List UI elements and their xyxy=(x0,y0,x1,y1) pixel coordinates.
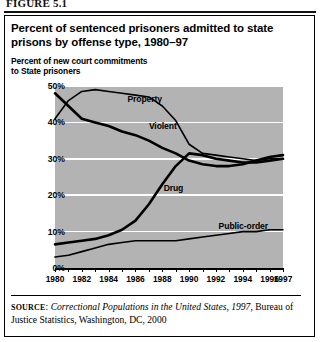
figure-rule xyxy=(4,11,316,13)
y-axis-note-line1: Percent of new court commitments xyxy=(11,56,251,66)
x-axis-tick-label: 1984 xyxy=(99,274,118,284)
x-axis-tick xyxy=(149,268,150,272)
x-axis-tick xyxy=(68,268,69,272)
x-axis-tick xyxy=(243,268,244,272)
x-axis-tick-label: 1997 xyxy=(274,274,293,284)
series-label-public-order: Public-order xyxy=(219,221,268,231)
series-label-property: Property xyxy=(127,94,162,104)
x-axis-tick xyxy=(95,268,96,272)
x-axis-tick xyxy=(122,268,123,272)
x-axis-tick xyxy=(256,268,257,272)
x-axis-tick xyxy=(162,268,163,272)
x-axis-tick-label: 1994 xyxy=(233,274,252,284)
x-axis-line xyxy=(55,268,283,270)
source-note: SOURCE: Correctional Populations in the … xyxy=(11,301,297,325)
x-axis-tick xyxy=(82,268,83,272)
series-line-public-order xyxy=(55,230,283,257)
x-axis-tick xyxy=(216,268,217,272)
source-divider xyxy=(11,295,301,296)
source-prefix: SOURCE xyxy=(11,303,46,312)
series-label-drug: Drug xyxy=(164,183,184,193)
x-axis-tick-label: 1988 xyxy=(153,274,172,284)
page-title: Percent of sentenced prisoners admitted … xyxy=(11,22,299,49)
x-axis-tick-label: 1986 xyxy=(126,274,145,284)
chart-area: 0%10%20%30%40%50% PropertyViolentDrugPub… xyxy=(11,84,299,284)
y-axis-note: Percent of new court commitments to Stat… xyxy=(11,56,251,76)
figure-label: FIGURE 5.1 xyxy=(6,0,67,9)
x-axis-tick xyxy=(135,268,136,272)
x-axis-tick-label: 1990 xyxy=(180,274,199,284)
x-axis-tick-label: 1992 xyxy=(207,274,226,284)
x-axis-tick xyxy=(270,268,271,272)
y-axis-note-line2: to State prisoners xyxy=(11,66,251,76)
series-label-violent: Violent xyxy=(149,121,177,131)
x-axis-tick-label: 1980 xyxy=(46,274,65,284)
x-axis-tick xyxy=(229,268,230,272)
x-axis-tick-label: 1982 xyxy=(72,274,91,284)
x-axis-tick xyxy=(203,268,204,272)
x-axis-tick xyxy=(109,268,110,272)
source-publication: Correctional Populations in the United S… xyxy=(51,301,251,312)
x-axis-tick xyxy=(283,268,284,272)
x-axis-tick xyxy=(55,268,56,272)
x-axis-tick xyxy=(176,268,177,272)
x-axis-tick xyxy=(189,268,190,272)
series-lines xyxy=(55,86,283,268)
